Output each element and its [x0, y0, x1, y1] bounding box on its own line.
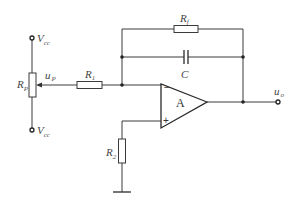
- resistor-r1: [77, 82, 102, 89]
- label-vcc-bottom: Vcc: [37, 124, 51, 139]
- label-r2: R2: [105, 146, 117, 161]
- label-plus-input: +: [163, 115, 169, 126]
- label-rf: Rf: [179, 12, 190, 26]
- junction-dot: [241, 100, 245, 104]
- label-opamp: A: [176, 96, 185, 110]
- output-terminal: [276, 100, 280, 104]
- potentiometer-branch: [29, 36, 77, 132]
- vcc-bottom-terminal: [30, 128, 34, 132]
- junction-dot: [241, 55, 245, 59]
- junction-dot: [120, 55, 124, 59]
- label-rp: RP: [16, 78, 29, 93]
- label-up: uP: [45, 69, 57, 83]
- potentiometer-rp: [29, 73, 36, 97]
- label-vcc-top: Vcc: [37, 32, 51, 47]
- resistor-rf: [174, 26, 198, 33]
- feedback-network: [120, 26, 245, 103]
- label-uo: uo: [274, 85, 285, 99]
- label-c: C: [181, 68, 189, 80]
- resistor-r2: [119, 139, 126, 163]
- label-minus-input: −: [164, 82, 170, 93]
- vcc-top-terminal: [30, 36, 34, 40]
- label-r1: R1: [84, 68, 95, 82]
- circuit-diagram: Vcc Vcc RP uP R1 Rf C R2 uo A − +: [0, 0, 299, 206]
- junction-dot: [120, 83, 124, 87]
- wiper-arrow-icon: [36, 83, 42, 88]
